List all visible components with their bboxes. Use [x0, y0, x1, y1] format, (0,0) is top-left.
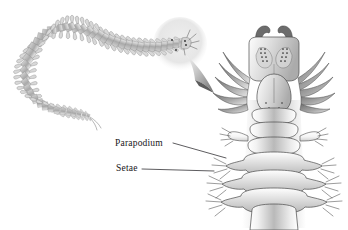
body-segments-parapodial — [206, 152, 342, 230]
label-parapodium: Parapodium — [115, 139, 163, 149]
tentacular-cirri-left — [213, 52, 250, 113]
prostomium — [257, 74, 291, 113]
anterior-detail — [206, 26, 342, 230]
anal-cirri — [90, 117, 101, 130]
leader-line-parapodium — [173, 143, 226, 158]
illustration-canvas — [0, 0, 348, 230]
leader-line-setae — [142, 169, 214, 171]
tentacular-cirri-right — [298, 52, 335, 113]
body-segments-smooth — [248, 108, 300, 155]
label-setae: Setae — [116, 164, 138, 174]
polychaete-worm-figure: Parapodium Setae — [0, 0, 348, 230]
